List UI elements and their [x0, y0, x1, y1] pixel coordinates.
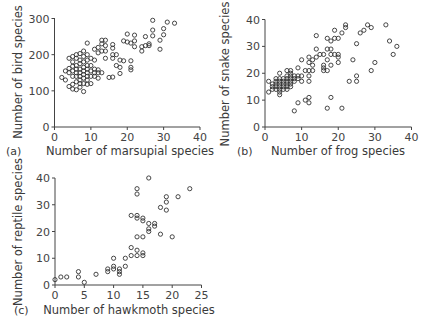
data-point	[307, 95, 311, 99]
data-point	[129, 213, 133, 217]
data-point	[369, 25, 373, 29]
panel-a-points	[60, 18, 177, 93]
data-point	[129, 253, 133, 257]
data-point	[141, 251, 145, 255]
data-point	[147, 221, 151, 225]
panel-a-y-label: Number of bird species	[11, 5, 25, 139]
data-point	[96, 76, 100, 80]
data-point	[307, 74, 311, 78]
data-point	[103, 56, 107, 60]
data-point	[278, 71, 282, 75]
data-point	[151, 34, 155, 38]
data-point	[158, 232, 162, 236]
data-point	[292, 109, 296, 113]
data-point	[311, 63, 315, 67]
data-point	[132, 39, 136, 43]
data-point	[135, 213, 139, 217]
data-point	[343, 23, 347, 27]
data-point	[129, 245, 133, 249]
x-tick-label: 15	[136, 289, 150, 302]
data-point	[336, 60, 340, 64]
panel-a-x-label: Number of marsupial species	[46, 144, 214, 158]
data-point	[82, 89, 86, 93]
data-point	[147, 176, 151, 180]
data-point	[94, 272, 98, 276]
data-point	[82, 49, 86, 53]
x-tick-label: 30	[157, 131, 171, 144]
y-tick-label: 300	[29, 13, 50, 26]
data-point	[165, 20, 169, 24]
data-point	[117, 267, 121, 271]
data-point	[96, 45, 100, 49]
data-point	[143, 34, 147, 38]
x-tick-label: 20	[331, 131, 345, 144]
x-tick-label: 10	[84, 131, 98, 144]
x-tick-label: 10	[295, 131, 309, 144]
data-point	[135, 253, 139, 257]
panel-a-ticks: 0102030400100200300	[29, 13, 208, 145]
data-point	[362, 28, 366, 32]
data-point	[162, 33, 166, 37]
data-point	[92, 58, 96, 62]
data-point	[329, 95, 333, 99]
panel-b-label: (b)	[237, 145, 253, 158]
data-point	[340, 31, 344, 35]
data-point	[135, 192, 139, 196]
data-point	[141, 235, 145, 239]
data-point	[76, 270, 80, 274]
y-tick-label: 30	[36, 199, 50, 212]
data-point	[164, 208, 168, 212]
panel-b-x-label: Number of frog species	[271, 144, 405, 158]
data-point	[164, 200, 168, 204]
data-point	[147, 227, 151, 231]
data-point	[118, 71, 122, 75]
panel-c-x-label: Number of hawkmoth species	[43, 303, 215, 317]
data-point	[59, 275, 63, 279]
y-tick-label: 0	[43, 121, 50, 134]
data-point	[329, 63, 333, 67]
data-point	[151, 28, 155, 32]
data-point	[188, 187, 192, 191]
y-tick-label: 0	[253, 121, 260, 134]
y-tick-label: 20	[246, 67, 260, 80]
data-point	[332, 28, 336, 32]
panel-c-points	[53, 176, 192, 285]
data-point	[112, 256, 116, 260]
data-point	[125, 32, 129, 36]
figure: 0102030400100200300 Number of bird speci…	[0, 0, 431, 327]
data-point	[82, 280, 86, 284]
data-point	[71, 60, 75, 64]
data-point	[129, 59, 133, 63]
data-point	[153, 221, 157, 225]
panel-c: 0510152025010203040 Number of reptile sp…	[11, 158, 215, 317]
data-point	[63, 78, 67, 82]
data-point	[158, 205, 162, 209]
data-point	[373, 60, 377, 64]
y-tick-label: 30	[246, 40, 260, 53]
data-point	[158, 47, 162, 51]
data-point	[151, 18, 155, 22]
x-tick-label: 40	[405, 131, 419, 144]
x-tick-label: 10	[107, 289, 121, 302]
data-point	[314, 34, 318, 38]
data-point	[123, 264, 127, 268]
data-point	[387, 39, 391, 43]
y-tick-label: 40	[246, 14, 260, 27]
data-point	[322, 63, 326, 67]
data-point	[135, 248, 139, 252]
panel-a-label: (a)	[6, 145, 21, 158]
data-point	[132, 45, 136, 49]
data-point	[300, 79, 304, 83]
x-tick-label: 0	[262, 131, 269, 144]
data-point	[170, 235, 174, 239]
y-tick-label: 20	[36, 226, 50, 239]
data-point	[351, 58, 355, 62]
y-tick-label: 0	[43, 279, 50, 292]
x-tick-label: 5	[81, 289, 88, 302]
data-point	[300, 58, 304, 62]
data-point	[354, 79, 358, 83]
data-point	[369, 68, 373, 72]
data-point	[395, 44, 399, 48]
data-point	[158, 38, 162, 42]
data-point	[140, 49, 144, 53]
